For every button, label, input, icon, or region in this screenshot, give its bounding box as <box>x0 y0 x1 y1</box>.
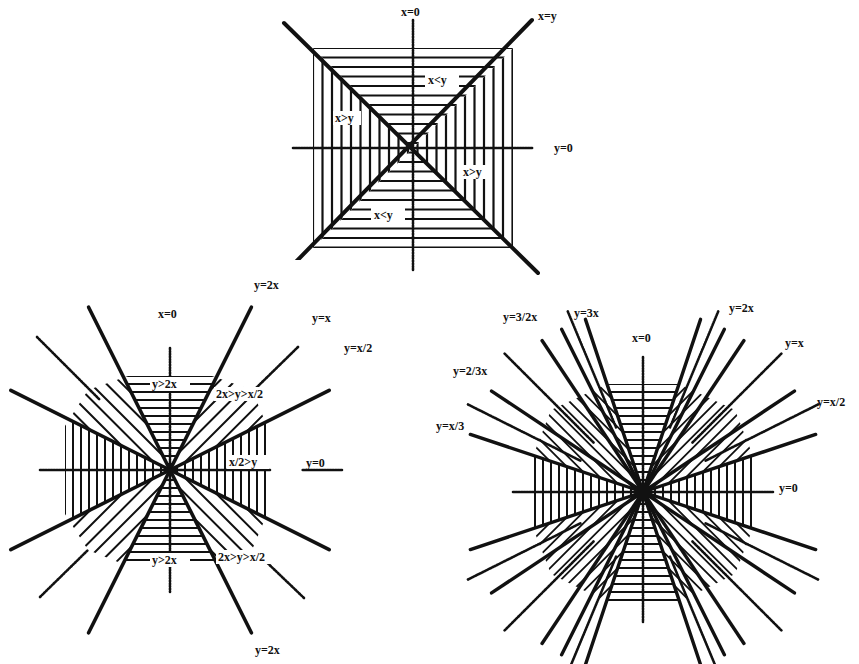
label-y2x-br: y=2x <box>729 301 754 315</box>
region-right-x2gty: x/2>y <box>229 455 257 469</box>
top-diagram <box>284 20 538 273</box>
region-top-xlty: x<y <box>428 73 447 87</box>
label-yx3-br: y=x/3 <box>436 419 464 433</box>
region-top-ygt2x: y>2x <box>152 377 177 391</box>
region-bottom-xlty: x<y <box>374 208 393 222</box>
label-y32x-br: y=3/2x <box>503 310 537 324</box>
region-upper-right: 2x>y>x/2 <box>216 387 263 401</box>
label-y0-bl: y=0 <box>306 456 325 470</box>
label-y0-br: y=0 <box>779 481 798 495</box>
label-x0-br: x=0 <box>632 331 651 345</box>
region-lower-right: 2x>y>x/2 <box>218 550 265 564</box>
diagram-canvas: x=0 x=y y=0 y=2x x<y x>y x>y x<y x=0 y=x… <box>0 0 859 664</box>
label-xy-top: x=y <box>538 9 557 23</box>
label-y2x-top: y=2x <box>254 278 279 292</box>
region-left-xgty: x>y <box>335 111 354 125</box>
label-yx-br: y=x <box>785 336 804 350</box>
region-right-xgty: x>y <box>463 165 482 179</box>
label-y3x-br: y=3x <box>574 306 599 320</box>
label-y23x-br: y=2/3x <box>453 364 487 378</box>
label-yx2-br: y=x/2 <box>817 395 845 409</box>
label-x0-top: x=0 <box>401 5 420 19</box>
region-bottom-ygt2x: y>2x <box>152 553 177 567</box>
label-x0-bl: x=0 <box>158 307 177 321</box>
label-yx-bl: y=x <box>312 311 331 325</box>
label-y0-top: y=0 <box>554 141 573 155</box>
label-yx2-bl: y=x/2 <box>344 341 372 355</box>
label-y2x-bl: y=2x <box>255 643 280 657</box>
